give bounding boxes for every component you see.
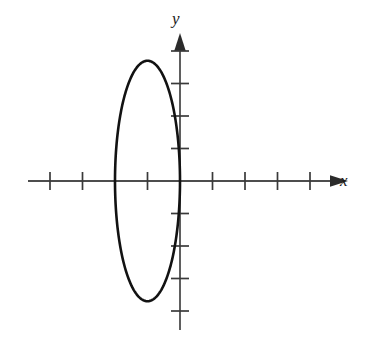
ellipse-figure: x y xyxy=(0,0,368,344)
x-axis-label: x xyxy=(340,172,348,189)
y-axis-label: y xyxy=(172,10,180,27)
y-axis-arrow-icon xyxy=(174,33,186,51)
plot-canvas xyxy=(0,0,368,344)
